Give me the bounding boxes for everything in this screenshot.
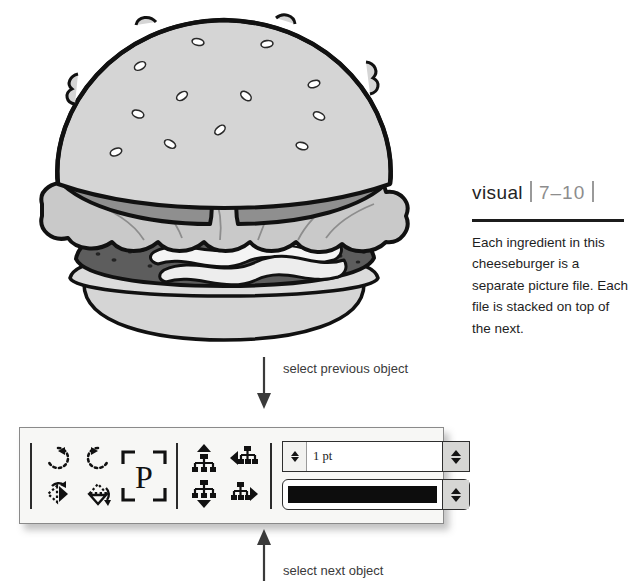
placeholder-frame-icon: P bbox=[119, 448, 169, 504]
arrange-button-group bbox=[184, 440, 264, 512]
spinner-down-icon[interactable] bbox=[451, 458, 461, 464]
rotate-counterclockwise-button[interactable] bbox=[79, 441, 117, 475]
stroke-color-swatch-holder[interactable] bbox=[283, 480, 442, 509]
stepper-down-icon[interactable] bbox=[291, 457, 299, 462]
figure-caption: visual 7–10 Each ingredient in this chee… bbox=[472, 178, 632, 339]
annotation-select-next-label: select next object bbox=[283, 563, 383, 578]
rotate-counterclockwise-icon bbox=[84, 444, 112, 472]
cheeseburger-illustration bbox=[14, 4, 434, 344]
placeholder-frame-button[interactable]: P bbox=[118, 441, 170, 511]
stroke-color-swatch[interactable] bbox=[288, 486, 437, 503]
placeholder-letter: P bbox=[135, 459, 153, 495]
rotate-clockwise-icon bbox=[44, 444, 72, 472]
flip-horizontal-button[interactable] bbox=[39, 477, 77, 511]
caption-divider-right bbox=[592, 181, 594, 202]
stroke-field-stack: 1 pt bbox=[282, 441, 470, 510]
bring-forward-icon bbox=[228, 480, 260, 508]
bring-forward-button[interactable] bbox=[225, 477, 263, 511]
top-bun-layer bbox=[57, 15, 390, 208]
stroke-weight-stepper[interactable] bbox=[283, 442, 307, 471]
flip-vertical-icon bbox=[84, 480, 112, 508]
bring-to-front-icon bbox=[190, 443, 218, 473]
flip-horizontal-icon bbox=[44, 480, 72, 508]
send-to-back-button[interactable] bbox=[185, 477, 223, 511]
figure-number: 7–10 bbox=[539, 182, 585, 204]
send-backward-icon bbox=[228, 444, 260, 472]
stroke-color-field[interactable] bbox=[282, 479, 470, 510]
visual-label-row: visual 7–10 bbox=[472, 178, 632, 206]
send-to-back-icon bbox=[190, 479, 218, 509]
annotation-select-previous: select previous object bbox=[253, 357, 408, 409]
flip-vertical-button[interactable] bbox=[79, 477, 117, 511]
bring-to-front-button[interactable] bbox=[185, 441, 223, 475]
visual-word: visual bbox=[472, 182, 523, 204]
annotation-select-previous-label: select previous object bbox=[283, 361, 408, 376]
transform-button-group bbox=[38, 440, 118, 512]
spinner-up-icon[interactable] bbox=[451, 488, 461, 494]
toolbar-separator-1 bbox=[30, 443, 32, 509]
stepper-up-icon[interactable] bbox=[291, 451, 299, 456]
stroke-color-spinner[interactable] bbox=[442, 480, 469, 509]
toolbar-separator-2 bbox=[176, 443, 178, 509]
object-toolbar-panel[interactable]: P bbox=[19, 427, 444, 524]
caption-body-text: Each ingredient in this cheeseburger is … bbox=[472, 232, 630, 340]
spinner-up-icon[interactable] bbox=[451, 450, 461, 456]
up-arrow-icon bbox=[253, 529, 275, 581]
send-backward-button[interactable] bbox=[225, 441, 263, 475]
rotate-clockwise-button[interactable] bbox=[39, 441, 77, 475]
down-arrow-icon bbox=[253, 357, 275, 409]
stroke-weight-field[interactable]: 1 pt bbox=[282, 441, 470, 472]
caption-horizontal-rule bbox=[472, 219, 624, 222]
stroke-weight-spinner[interactable] bbox=[442, 442, 469, 471]
stroke-weight-value[interactable]: 1 pt bbox=[307, 442, 442, 471]
toolbar-separator-3 bbox=[270, 443, 272, 509]
spinner-down-icon[interactable] bbox=[451, 496, 461, 502]
annotation-select-next: select next object bbox=[253, 529, 383, 581]
caption-divider-left bbox=[530, 181, 532, 202]
